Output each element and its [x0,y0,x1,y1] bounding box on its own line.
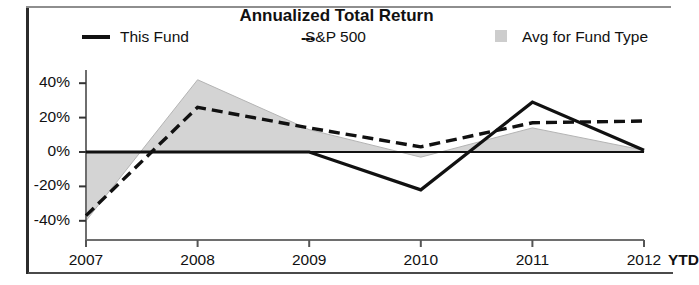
x-tick-label: 2010 [391,251,451,269]
x-tick-label: 2011 [502,251,562,269]
y-tick-label: 0% [8,142,70,160]
chart-title: Annualized Total Return [0,6,673,26]
legend-label-sp-500: S&P 500 [305,28,366,46]
legend-marker-avg-for-fund-type [495,30,507,42]
x-tick-label: 2012 [614,251,674,269]
y-tick-label: 20% [8,108,70,126]
document-frame-left-rule [26,6,29,274]
y-tick-label: -20% [8,176,70,194]
legend-label-this-fund: This Fund [120,28,189,46]
legend-label-avg-for-fund-type: Avg for Fund Type [522,28,648,46]
series-area-avg-for-fund-type [86,80,644,221]
x-tick-label: 2008 [168,251,228,269]
y-tick-label: 40% [8,73,70,91]
legend-marker-this-fund [82,35,110,39]
document-frame-bottom-rule [28,272,673,274]
x-tick-label: 2009 [279,251,339,269]
x-tick-label: 2007 [56,251,116,269]
y-tick-label: -40% [8,211,70,229]
x-tick-label-ytd: YTD [668,251,699,269]
